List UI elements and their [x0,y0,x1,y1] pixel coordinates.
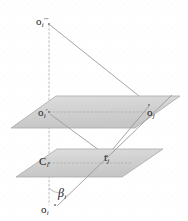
label-o-top: oi′′′ [36,12,49,29]
label-o-upper-left-base: o [38,106,44,118]
label-o-upper-left: oi′ [38,103,48,120]
label-o-bottom-base: o [41,203,47,215]
label-c-lower-left: Ci [39,152,49,169]
label-c-lower-left-base: C [39,155,46,167]
label-c-lower-left-sub: i [47,161,49,169]
label-o-upper-right-base: o [147,106,153,118]
label-o-bottom: oi [41,200,49,217]
label-o-upper-right-sub: j [153,112,155,120]
label-o-upper-right: oj [147,103,155,120]
node-oi [54,204,56,206]
label-o-top-base: o [36,15,42,27]
label-t-lower-right-sub: j [107,157,109,165]
label-o-top-sup: ′′′ [44,16,49,24]
label-beta: βi [58,184,66,201]
projection-diagram: oi′′′ oi′ oj Ci tj βi oi [0,0,188,221]
label-o-upper-left-sup: ′ [46,107,48,115]
label-beta-sub: i [64,193,66,201]
label-o-bottom-sub: i [47,209,49,217]
node-oiprime [48,111,50,113]
diagram-canvas [0,0,188,221]
label-t-lower-right: tj [104,148,109,165]
